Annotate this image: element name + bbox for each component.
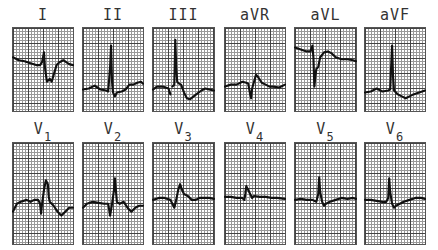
ecg-trace-v4	[225, 143, 285, 244]
lead-label: aVL	[294, 6, 357, 24]
lead-name: I	[38, 6, 48, 24]
lead-label: V2	[82, 120, 144, 141]
lead-v5: V5	[294, 120, 357, 245]
ecg-grid	[294, 27, 357, 112]
lead-label: V4	[224, 120, 286, 141]
lead-label: V3	[152, 120, 215, 141]
lead-label: I	[12, 6, 74, 24]
ecg-grid	[12, 27, 74, 112]
lead-name: aVL	[310, 6, 340, 24]
lead-name: aVF	[380, 6, 410, 24]
lead-ii: II	[82, 6, 144, 112]
ecg-trace-v6	[365, 143, 425, 244]
ecg-grid	[224, 27, 286, 112]
ecg-trace-avf	[365, 28, 425, 111]
lead-v2: V2	[82, 120, 144, 245]
ecg-trace-v5	[295, 143, 356, 244]
lead-v3: V3	[152, 120, 215, 245]
lead-name: V	[34, 120, 44, 138]
lead-label: V1	[12, 120, 74, 141]
ecg-grid	[82, 142, 144, 245]
lead-name: V	[174, 120, 184, 138]
lead-name: V	[316, 120, 326, 138]
lead-iii: III	[152, 6, 215, 112]
lead-name: V	[246, 120, 256, 138]
ecg-trace-avl	[295, 28, 356, 111]
ecg-trace-i	[13, 28, 73, 111]
lead-label: V6	[364, 120, 426, 141]
ecg-grid	[82, 27, 144, 112]
lead-name: V	[104, 120, 114, 138]
lead-i: I	[12, 6, 74, 112]
lead-avl: aVL	[294, 6, 357, 112]
lead-label: III	[152, 6, 215, 24]
ecg-grid	[364, 142, 426, 245]
ecg-trace-avr	[225, 28, 285, 111]
ecg-trace-v2	[83, 143, 143, 244]
lead-avf: aVF	[364, 6, 426, 112]
ecg-grid	[152, 142, 215, 245]
lead-v1: V1	[12, 120, 74, 245]
lead-name: III	[168, 6, 198, 24]
lead-name: V	[386, 120, 396, 138]
lead-name: aVR	[240, 6, 270, 24]
ecg-trace-v1	[13, 143, 73, 244]
lead-v6: V6	[364, 120, 426, 245]
lead-v4: V4	[224, 120, 286, 245]
ecg-grid	[12, 142, 74, 245]
ecg-grid	[152, 27, 215, 112]
lead-label: V5	[294, 120, 357, 141]
ecg-trace-v3	[153, 143, 214, 244]
lead-avr: aVR	[224, 6, 286, 112]
lead-name: II	[103, 6, 123, 24]
ecg-grid	[224, 142, 286, 245]
lead-label: II	[82, 6, 144, 24]
ecg-trace-iii	[153, 28, 214, 111]
ecg-trace-ii	[83, 28, 143, 111]
ecg-grid	[364, 27, 426, 112]
ecg-grid	[294, 142, 357, 245]
lead-label: aVR	[224, 6, 286, 24]
lead-label: aVF	[364, 6, 426, 24]
